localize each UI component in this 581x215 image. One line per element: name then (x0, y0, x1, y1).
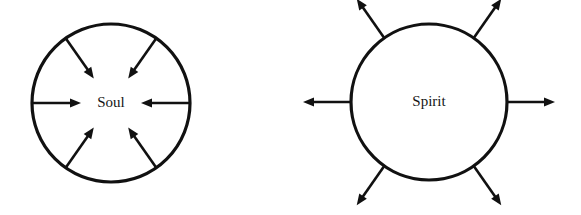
diagram-spirit: Spirit (303, 0, 555, 205)
arrow-shaft (66, 133, 90, 168)
arrow-outward-0 (507, 97, 555, 106)
soul-label: Soul (97, 94, 125, 110)
arrow-shaft (361, 4, 385, 38)
arrow-head (84, 128, 94, 140)
arrow-head (544, 97, 555, 106)
arrow-head (491, 194, 501, 206)
arrow-head (357, 194, 367, 206)
arrow-head (128, 67, 138, 79)
arrow-shaft (361, 166, 385, 200)
arrow-shaft (66, 38, 90, 73)
arrow-inward-3 (32, 98, 81, 107)
arrow-outward-1 (474, 0, 502, 38)
arrow-head (128, 128, 138, 140)
arrow-outward-3 (303, 97, 351, 106)
spirit-label: Spirit (412, 93, 446, 109)
figure-canvas: Soul Spirit (0, 0, 581, 215)
arrow-shaft (474, 4, 498, 38)
arrow-head (70, 98, 81, 107)
arrow-inward-4 (66, 128, 94, 168)
arrow-head (141, 98, 152, 107)
arrow-head (303, 97, 314, 106)
soul-spirit-figure: Soul Spirit (0, 0, 581, 215)
arrow-outward-4 (357, 166, 385, 205)
arrow-shaft (132, 38, 156, 73)
diagram-soul: Soul (32, 24, 190, 182)
arrow-shaft (474, 166, 498, 200)
arrow-head (84, 67, 94, 79)
arrow-outward-2 (357, 0, 385, 38)
arrow-inward-0 (141, 98, 190, 107)
arrow-outward-5 (474, 166, 502, 205)
arrow-inward-1 (128, 38, 156, 78)
arrow-shaft (132, 133, 156, 168)
arrow-inward-2 (66, 38, 94, 78)
arrow-inward-5 (128, 128, 156, 168)
